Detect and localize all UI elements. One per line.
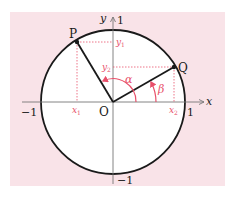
- x-axis-label: x: [206, 95, 213, 108]
- x-tick-pos-one: 1: [187, 106, 194, 119]
- y-tick-neg-one: −1: [117, 174, 133, 187]
- unit-circle-diagram: P Q O x y 1 −1 1 −1 x1 y1 x2 y2 α β: [0, 0, 237, 199]
- angle-beta-label: β: [157, 83, 164, 96]
- point-q: [172, 65, 176, 69]
- y-axis-label: y: [99, 12, 107, 25]
- point-p-label: P: [69, 27, 77, 41]
- x-tick-neg-one: −1: [21, 106, 37, 119]
- point-q-label: Q: [178, 61, 188, 75]
- angle-alpha-label: α: [125, 73, 133, 86]
- y-tick-pos-one: 1: [117, 14, 124, 27]
- origin-label: O: [99, 105, 109, 119]
